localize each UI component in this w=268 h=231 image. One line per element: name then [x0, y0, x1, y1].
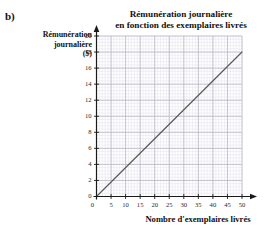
figure-root: b) Rémunération journalière en fonction …: [0, 0, 268, 231]
y-axis-arrow: [94, 25, 100, 32]
x-axis-arrow: [250, 194, 257, 200]
plot-area: 0246810121416182005101520253035404550: [0, 0, 268, 231]
y-tick-label-16: 16: [76, 64, 92, 71]
plot-svg: [0, 0, 268, 231]
y-tick-label-10: 10: [76, 112, 92, 119]
y-tick-label-8: 8: [76, 128, 92, 135]
y-tick-label-6: 6: [76, 144, 92, 151]
y-tick-label-14: 14: [76, 80, 92, 87]
y-tick-label-4: 4: [76, 160, 92, 167]
x-tick-label-50: 50: [234, 201, 250, 208]
y-tick-label-12: 12: [76, 96, 92, 103]
y-tick-label-18: 18: [76, 48, 92, 55]
y-tick-label-0: 0: [76, 192, 92, 199]
y-tick-label-2: 2: [76, 176, 92, 183]
y-tick-label-20: 20: [76, 32, 92, 39]
x-tick-label-0: 0: [85, 201, 101, 208]
